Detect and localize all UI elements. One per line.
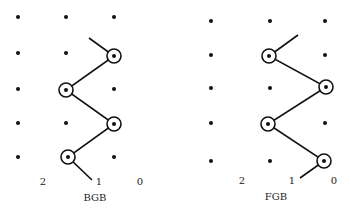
node-center-dot — [322, 159, 326, 163]
grid-dot — [16, 121, 20, 125]
node-center-dot — [112, 122, 116, 126]
grid-dot — [112, 87, 116, 91]
grid-dot — [323, 53, 327, 57]
node-center-dot — [64, 88, 68, 92]
grid-dot — [112, 15, 116, 19]
grid-dot — [16, 155, 20, 159]
grid-dot — [16, 51, 20, 55]
trellis-diagram — [0, 0, 349, 213]
grid-dot — [209, 19, 213, 23]
grid-dot — [323, 121, 327, 125]
grid-dot — [268, 159, 272, 163]
grid-dot — [209, 121, 213, 125]
grid-dot — [209, 86, 213, 90]
node-center-dot — [324, 85, 328, 89]
grid-dot — [209, 53, 213, 57]
grid-dot — [16, 87, 20, 91]
node-center-dot — [112, 54, 116, 58]
grid-dot — [268, 19, 272, 23]
column-label: 0 — [331, 175, 337, 186]
grid-dot — [16, 15, 20, 19]
panel-bgb — [16, 15, 121, 180]
node-center-dot — [66, 155, 70, 159]
grid-dot — [64, 51, 68, 55]
column-label: 2 — [239, 175, 245, 186]
node-center-dot — [267, 54, 271, 58]
node-center-dot — [266, 122, 270, 126]
column-label: 0 — [137, 176, 143, 187]
panel-fgb — [209, 19, 333, 178]
grid-dot — [112, 155, 116, 159]
panel-title: FGB — [265, 191, 287, 202]
column-label: 1 — [96, 176, 102, 187]
grid-dot — [209, 159, 213, 163]
grid-dot — [64, 121, 68, 125]
grid-dot — [268, 86, 272, 90]
column-label: 1 — [289, 175, 295, 186]
grid-dot — [323, 19, 327, 23]
column-label: 2 — [40, 176, 46, 187]
grid-dot — [64, 15, 68, 19]
panel-title: BGB — [84, 192, 107, 203]
